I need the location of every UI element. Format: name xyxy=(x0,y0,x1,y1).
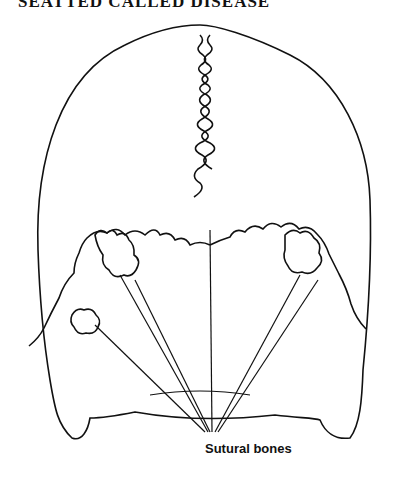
lambdoid-suture xyxy=(29,229,210,346)
sutural-bone-left xyxy=(95,230,139,276)
skull-posterior-diagram xyxy=(0,0,400,481)
sutural-bone-left-2 xyxy=(71,309,100,334)
sutural-bones-label: Sutural bones xyxy=(205,441,292,456)
sutural-bone-right xyxy=(284,230,322,273)
skull-outline xyxy=(38,25,371,439)
